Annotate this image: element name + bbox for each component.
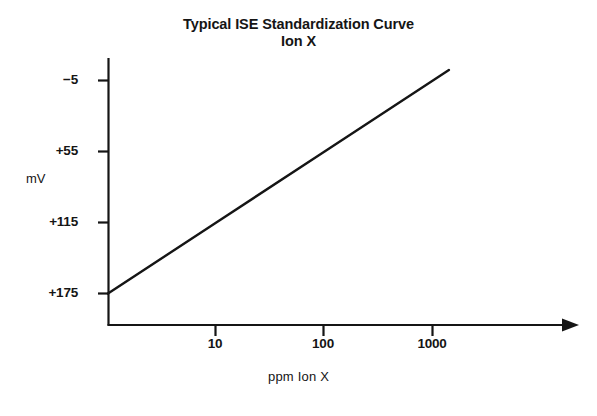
chart-figure: Typical ISE Standardization Curve Ion X … <box>0 0 597 416</box>
plot-area <box>0 0 597 416</box>
x-axis-arrowhead <box>562 319 579 332</box>
data-series-line <box>108 70 449 294</box>
